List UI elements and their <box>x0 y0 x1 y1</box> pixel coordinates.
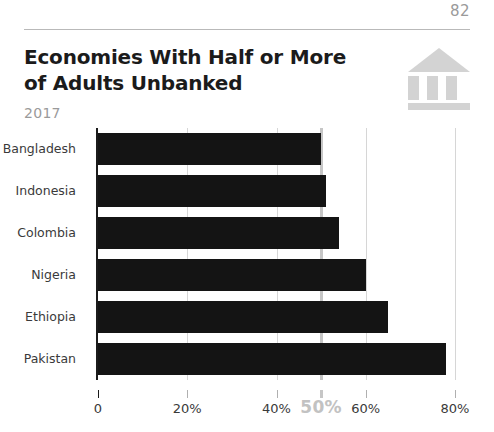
x-tick-0 <box>98 390 99 398</box>
chart-title-line-1: Economies With Half or More <box>24 45 346 69</box>
x-tick-label-60: 60% <box>351 402 380 415</box>
bar-row: Colombia <box>98 217 480 249</box>
bar-row: Pakistan <box>98 343 480 375</box>
bar-nigeria <box>98 259 366 291</box>
y-axis-label-ethiopia: Ethiopia <box>25 311 76 324</box>
bar-indonesia <box>98 175 326 207</box>
y-axis-label-indonesia: Indonesia <box>16 185 76 198</box>
page-number: 82 <box>450 2 470 20</box>
bar-row: Ethiopia <box>98 301 480 333</box>
x-tick-20 <box>187 390 188 398</box>
x-tick-label-20: 20% <box>173 402 202 415</box>
x-tick-label-0: 0 <box>94 402 102 415</box>
bar-pakistan <box>98 343 446 375</box>
bar-row: Indonesia <box>98 175 480 207</box>
x-tick-60 <box>366 390 367 398</box>
header-divider <box>24 29 470 30</box>
x-tick-label-80: 80% <box>441 402 470 415</box>
page-header: 82 <box>24 0 470 34</box>
bar-chart: BangladeshIndonesiaColombiaNigeriaEthiop… <box>0 128 494 390</box>
x-tick-40 <box>277 390 278 398</box>
x-tick-80 <box>455 390 456 398</box>
x-axis-scale: 020%40%50%60%80% <box>98 390 480 432</box>
chart-title-line-2: of Adults Unbanked <box>24 71 242 95</box>
title-block: Economies With Half or More of Adults Un… <box>24 44 354 121</box>
y-axis-label-pakistan: Pakistan <box>24 353 76 366</box>
bar-ethiopia <box>98 301 388 333</box>
bar-colombia <box>98 217 339 249</box>
bar-row: Bangladesh <box>98 133 480 165</box>
x-tick-label-50: 50% <box>300 399 342 416</box>
plot-area: BangladeshIndonesiaColombiaNigeriaEthiop… <box>98 128 480 380</box>
bar-row: Nigeria <box>98 259 480 291</box>
x-tick-label-40: 40% <box>262 402 291 415</box>
page-title: Economies With Half or More of Adults Un… <box>24 44 354 96</box>
y-axis-label-bangladesh: Bangladesh <box>3 143 76 156</box>
bank-icon <box>406 46 472 110</box>
bar-bangladesh <box>98 133 321 165</box>
y-axis-label-colombia: Colombia <box>17 227 76 240</box>
chart-subtitle-year: 2017 <box>24 105 354 121</box>
x-axis: 020%40%50%60%80% <box>0 390 494 432</box>
y-axis-label-nigeria: Nigeria <box>31 269 76 282</box>
